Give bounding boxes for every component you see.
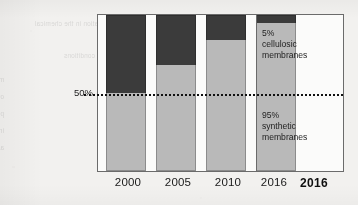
- bar-segment-cellulosic: [156, 15, 196, 65]
- annotation-panel-divider: [256, 15, 257, 171]
- ghost-text-line: membrane separation in the chemical: [0, 76, 4, 83]
- annotation-cellulosic: 5% cellulosic membranes: [262, 28, 307, 62]
- bar-segment-synthetic: [156, 65, 196, 171]
- x-axis-label-2000: 2000: [101, 176, 155, 188]
- bar-segment-cellulosic: [256, 15, 296, 23]
- scanned-page: membrane separation in the chemical of t…: [0, 0, 358, 205]
- bar-segment-synthetic: [106, 93, 146, 171]
- reference-line-label: 50%: [61, 87, 93, 98]
- scan-speck: [30, 30, 32, 32]
- ghost-text-line: and increasing demand for water: [0, 144, 4, 151]
- bar-2005[interactable]: [156, 15, 196, 171]
- bar-segment-cellulosic: [106, 15, 146, 93]
- bar-2010[interactable]: [206, 15, 246, 171]
- ghost-text-line: performance and operating conditions: [0, 110, 4, 117]
- bar-2000[interactable]: [106, 15, 146, 171]
- x-axis-label-2016-highlight: 2016: [285, 176, 343, 190]
- bar-segment-synthetic: [206, 40, 246, 171]
- reference-line-50: [84, 94, 343, 96]
- scan-speck: [200, 197, 202, 199]
- ghost-text-line: of the synthetic membranes in the: [0, 93, 4, 100]
- ghost-text-line: in the use of cellulosic membranes: [0, 127, 4, 134]
- annotation-synthetic: 95% synthetic membranes: [262, 110, 307, 144]
- x-axis-label-2005: 2005: [151, 176, 205, 188]
- bar-segment-cellulosic: [206, 15, 246, 40]
- scan-speck: [12, 166, 15, 168]
